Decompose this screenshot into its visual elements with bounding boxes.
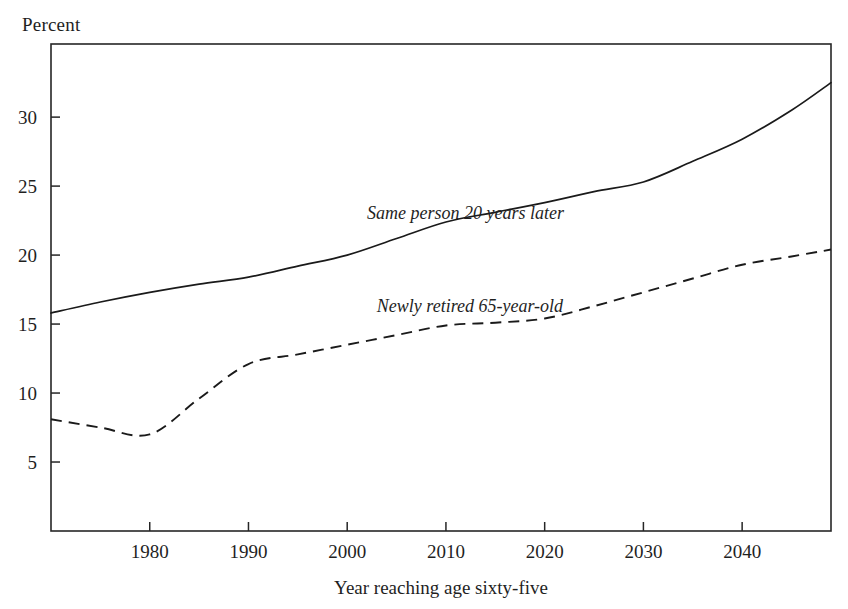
x-tick-label-2000: 2000 — [328, 541, 366, 562]
x-tick-label-2040: 2040 — [723, 541, 761, 562]
axis-tick-labels: 510152025301980199020002010202020302040 — [18, 107, 761, 562]
y-tick-label-15: 15 — [18, 314, 37, 335]
y-tick-label-5: 5 — [28, 452, 38, 473]
series-line-2 — [51, 250, 831, 436]
x-tick-label-1980: 1980 — [131, 541, 169, 562]
annotation-series-2: Newly retired 65-year-old — [376, 296, 564, 316]
plot-border — [51, 44, 831, 531]
x-axis-title-text: Year reaching age sixty-five — [334, 577, 548, 598]
chart-page: Percent 51015202530198019902000201020202… — [0, 0, 848, 609]
series-annotations: Same person 20 years laterNewly retired … — [367, 203, 565, 315]
x-tick-label-2010: 2010 — [427, 541, 465, 562]
y-tick-label-30: 30 — [18, 107, 37, 128]
x-tick-label-2020: 2020 — [526, 541, 564, 562]
series-line-1 — [51, 83, 831, 313]
data-series — [51, 83, 831, 436]
y-tick-label-25: 25 — [18, 176, 37, 197]
annotation-series-1: Same person 20 years later — [367, 203, 565, 223]
axis-ticks — [51, 117, 742, 531]
x-axis-title: Year reaching age sixty-five — [334, 577, 548, 598]
x-tick-label-1990: 1990 — [229, 541, 267, 562]
plot-frame — [51, 44, 831, 531]
x-tick-label-2030: 2030 — [624, 541, 662, 562]
y-tick-label-10: 10 — [18, 383, 37, 404]
y-tick-label-20: 20 — [18, 245, 37, 266]
line-chart: 510152025301980199020002010202020302040 … — [0, 0, 848, 609]
